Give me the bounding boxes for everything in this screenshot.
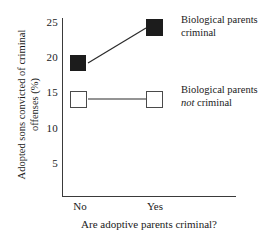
series-criminal-connector	[88, 28, 146, 63]
y-axis-line	[62, 18, 63, 197]
legend-not-emphasis: not	[181, 97, 194, 108]
y-axis-title: Adopted sons convicted of criminal offen…	[16, 15, 41, 195]
legend-criminal-line2: criminal	[181, 27, 258, 40]
legend-criminal-line1: Biological parents	[181, 14, 258, 25]
x-axis-title: Are adoptive parents criminal?	[62, 218, 236, 231]
x-tick-label-yes: Yes	[135, 200, 175, 213]
data-point-not-criminal-yes[interactable]	[146, 91, 163, 108]
legend-entry-not-criminal: Biological parents not criminal	[181, 84, 258, 109]
data-point-criminal-yes[interactable]	[146, 19, 163, 36]
legend-not-criminal-line1: Biological parents	[181, 84, 258, 95]
x-axis-line	[62, 196, 236, 197]
legend-not-criminal-rest: criminal	[194, 97, 232, 108]
x-tick-label-no: No	[60, 200, 100, 213]
legend-entry-criminal: Biological parents criminal	[181, 14, 258, 39]
data-point-not-criminal-no[interactable]	[70, 91, 87, 108]
data-point-criminal-no[interactable]	[70, 55, 86, 71]
legend-not-criminal-line2: not criminal	[181, 97, 258, 110]
chart-container: 25 20 15 10 5 No Yes Adopted sons convic…	[0, 0, 276, 243]
